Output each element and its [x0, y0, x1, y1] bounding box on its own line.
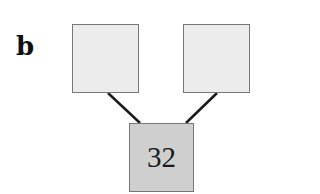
edge-left-to-child — [108, 93, 140, 123]
child-node-value: 32 — [147, 143, 176, 172]
right-parent-node — [183, 24, 250, 93]
left-parent-node — [72, 24, 139, 93]
child-node: 32 — [129, 123, 194, 192]
edge-right-to-child — [186, 93, 217, 123]
